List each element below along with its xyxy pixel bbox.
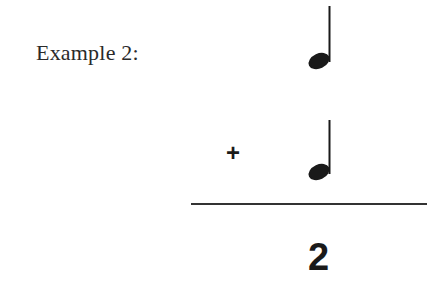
sum-result: 2 (308, 238, 329, 276)
sum-line (191, 203, 427, 205)
plus-operator: + (226, 139, 240, 167)
example-label: Example 2: (36, 40, 139, 66)
quarter-note-icon (300, 4, 340, 76)
quarter-note-icon (300, 116, 340, 188)
